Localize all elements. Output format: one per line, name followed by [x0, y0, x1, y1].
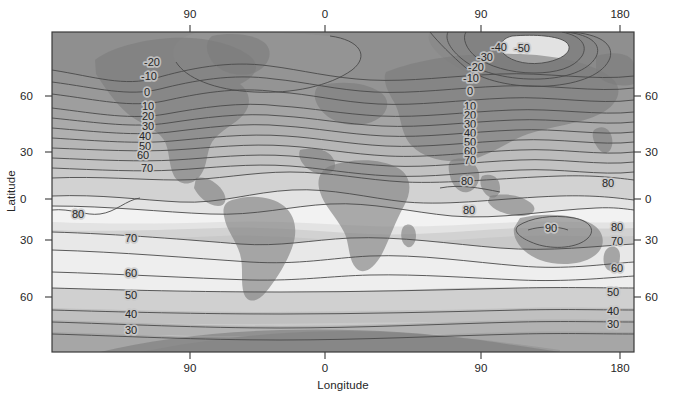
tick-label-top-0: 90: [184, 8, 197, 20]
contour-map-figure: -20-20-10-100010102020303040405050606070…: [0, 0, 686, 400]
contour-label: 6060: [137, 149, 149, 161]
contour-label: 8080: [611, 221, 623, 233]
svg-text:30: 30: [607, 318, 619, 330]
tick-label-right-4: 60: [645, 291, 658, 303]
svg-text:-40: -40: [491, 41, 507, 53]
contour-label: -50-50: [514, 42, 530, 54]
svg-text:70: 70: [464, 154, 476, 166]
svg-text:60: 60: [137, 149, 149, 161]
svg-text:40: 40: [607, 305, 619, 317]
contour-label: 7070: [125, 232, 137, 244]
contour-label: 6060: [611, 262, 623, 274]
contour-label: -20-20: [144, 56, 160, 68]
contour-label: 8080: [463, 204, 475, 216]
svg-text:80: 80: [463, 204, 475, 216]
contour-label: -10-10: [141, 70, 157, 82]
tick-label-right-3: 30: [645, 234, 658, 246]
tick-label-left-1: 30: [20, 146, 33, 158]
svg-text:-20: -20: [144, 56, 160, 68]
tick-label-top-2: 90: [475, 8, 488, 20]
svg-text:-50: -50: [514, 42, 530, 54]
svg-text:0: 0: [144, 86, 150, 98]
contour-label: 00: [144, 86, 150, 98]
svg-text:60: 60: [125, 267, 137, 279]
x-axis-title: Longitude: [0, 379, 686, 391]
contour-label: 8080: [461, 175, 473, 187]
tick-label-top-1: 0: [322, 8, 328, 20]
contour-label: 4040: [125, 308, 137, 320]
y-axis-title: Latitude: [5, 156, 17, 226]
contour-label: 8080: [72, 208, 84, 220]
tick-label-top-3: 180: [610, 8, 629, 20]
contour-label: 00: [467, 85, 473, 97]
contour-label: 7070: [464, 154, 476, 166]
tick-label-left-4: 60: [20, 291, 33, 303]
tick-label-right-0: 60: [645, 90, 658, 102]
tick-label-bottom-3: 180: [610, 362, 629, 374]
tick-label-bottom-1: 0: [322, 362, 328, 374]
tick-label-bottom-2: 90: [475, 362, 488, 374]
svg-text:40: 40: [125, 308, 137, 320]
contour-label: 8080: [602, 177, 614, 189]
tick-label-bottom-0: 90: [184, 362, 197, 374]
svg-text:80: 80: [461, 175, 473, 187]
contour-label: -10-10: [463, 72, 479, 84]
svg-text:0: 0: [467, 85, 473, 97]
svg-text:60: 60: [611, 262, 623, 274]
contour-label: -40-40: [491, 41, 507, 53]
contour-label: 4040: [607, 305, 619, 317]
svg-text:-10: -10: [141, 70, 157, 82]
contour-label: 7070: [611, 235, 623, 247]
tick-label-left-3: 30: [20, 234, 33, 246]
contour-plot-canvas: -20-20-10-100010102020303040405050606070…: [0, 0, 686, 400]
tick-label-right-1: 30: [645, 146, 658, 158]
svg-text:70: 70: [611, 235, 623, 247]
contour-label: 3030: [125, 324, 137, 336]
tick-label-right-2: 0: [645, 193, 651, 205]
svg-text:50: 50: [607, 286, 619, 298]
svg-text:70: 70: [125, 232, 137, 244]
svg-text:80: 80: [611, 221, 623, 233]
contour-label: 5050: [125, 289, 137, 301]
contour-label: 6060: [125, 267, 137, 279]
contour-label: 5050: [607, 286, 619, 298]
svg-text:-10: -10: [463, 72, 479, 84]
contour-label: 3030: [607, 318, 619, 330]
svg-text:30: 30: [125, 324, 137, 336]
contour-label: 7070: [141, 162, 153, 174]
svg-text:50: 50: [125, 289, 137, 301]
svg-text:80: 80: [72, 208, 84, 220]
svg-text:80: 80: [602, 177, 614, 189]
svg-text:70: 70: [141, 162, 153, 174]
tick-label-left-0: 60: [20, 90, 33, 102]
contour-label: 9090: [545, 222, 557, 234]
tick-label-left-2: 0: [20, 193, 26, 205]
svg-text:90: 90: [545, 222, 557, 234]
